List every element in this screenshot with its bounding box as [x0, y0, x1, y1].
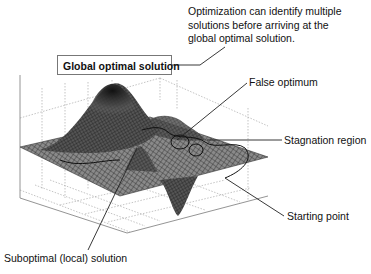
valley [160, 176, 198, 216]
stagnation-region-label: Stagnation region [284, 134, 366, 147]
note-line-1: Optimization can identify multiple [188, 5, 358, 19]
annotation-note: Optimization can identify multiple solut… [188, 5, 358, 46]
global-optimal-label: Global optimal solution [57, 55, 172, 75]
false-optimum-label: False optimum [249, 76, 318, 89]
starting-point-label: Starting point [287, 210, 349, 223]
suboptimal-solution-label: Suboptimal (local) solution [4, 252, 127, 265]
note-line-3: global optimal solution. [188, 32, 358, 46]
note-line-2: solutions before arriving at the [188, 19, 358, 33]
